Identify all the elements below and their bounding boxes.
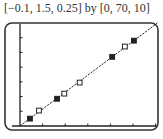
calculator-graph-window — [0, 0, 163, 139]
filled-square-marker — [132, 38, 137, 43]
filled-square-marker — [55, 96, 60, 101]
filled-square-marker — [28, 116, 33, 121]
open-square-marker — [62, 91, 67, 96]
open-square-marker — [122, 44, 127, 49]
filled-square-marker — [110, 54, 115, 59]
open-square-marker — [77, 80, 82, 85]
data-series — [20, 23, 157, 126]
open-square-marker — [37, 108, 42, 113]
